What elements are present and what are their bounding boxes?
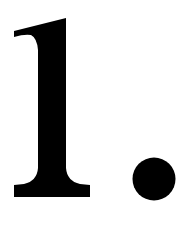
numbered-heading: 1.: [0, 0, 190, 225]
digit-one: [14, 18, 90, 197]
numeral-graphic: [0, 0, 190, 225]
period-dot: [133, 158, 176, 201]
